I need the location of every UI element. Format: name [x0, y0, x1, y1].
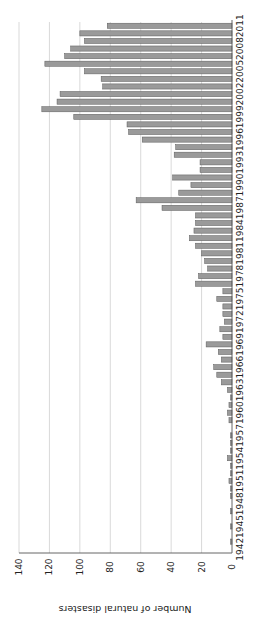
year-tick-label: 2005	[235, 60, 245, 83]
year-tick-label: 1978	[235, 264, 245, 287]
value-tick-label: 140	[14, 558, 24, 575]
year-tick-label: 1954	[235, 446, 245, 469]
bar-1998	[127, 122, 232, 127]
bar-2010	[80, 31, 232, 36]
year-tick-label: 1990	[235, 173, 245, 196]
bar-1994	[174, 152, 232, 157]
year-tick-label: 1972	[235, 310, 245, 333]
value-tick-labels: 020406080100120140	[14, 558, 237, 575]
value-tick-label: 60	[136, 561, 146, 573]
bar-series	[42, 23, 232, 544]
bar-1987	[162, 205, 232, 210]
bar-2006	[45, 61, 232, 66]
year-tick-label: 2002	[235, 83, 245, 106]
bar-1991	[173, 175, 232, 180]
value-tick-label: 0	[227, 564, 237, 570]
bar-1989	[179, 190, 232, 195]
bar-1954	[227, 456, 232, 461]
year-tick-label: 1993	[235, 151, 245, 174]
bar-1951	[229, 478, 232, 483]
bar-1984	[194, 228, 232, 233]
bar-1961	[229, 402, 232, 407]
bar-1979	[208, 266, 232, 271]
year-tick-label: 1996	[235, 128, 245, 151]
bar-2009	[84, 38, 232, 43]
bar-1974	[223, 304, 232, 309]
year-tick-label: 1945	[235, 515, 245, 538]
bar-1973	[223, 311, 232, 316]
bar-1967	[221, 357, 232, 362]
year-tick-label: 1984	[235, 219, 245, 242]
bar-1990	[191, 183, 232, 188]
bar-1976	[223, 289, 232, 294]
bar-1960	[227, 410, 232, 415]
year-tick-label: 2008	[235, 37, 245, 60]
bar-2007	[65, 54, 232, 59]
bar-1965	[217, 372, 232, 377]
value-tick-label: 100	[75, 558, 85, 575]
bar-1970	[223, 334, 232, 339]
year-tick-label: 2011	[235, 14, 245, 37]
bar-1971	[220, 327, 232, 332]
bar-1992	[200, 167, 232, 172]
bar-2000	[42, 107, 232, 112]
y-axis-title: Number of natural disasters	[58, 604, 191, 615]
bar-2002	[60, 91, 232, 96]
bar-2001	[57, 99, 232, 104]
bar-1983	[189, 236, 232, 241]
year-tick-label: 1942	[235, 538, 245, 561]
value-tick-label: 120	[44, 558, 54, 575]
bar-1968	[218, 349, 232, 354]
year-tick-label: 1966	[235, 355, 245, 378]
bar-1988	[136, 198, 232, 203]
year-tick-label: 1981	[235, 242, 245, 265]
bar-1975	[217, 296, 232, 301]
value-tick-label: 40	[166, 561, 176, 573]
year-tick-label: 1987	[235, 196, 245, 219]
bar-1969	[206, 342, 232, 347]
bar-1999	[74, 114, 232, 119]
bar-1963	[227, 387, 232, 392]
year-tick-label: 1957	[235, 424, 245, 447]
year-tick-label: 1960	[235, 401, 245, 424]
bar-2004	[101, 76, 232, 81]
bar-1986	[195, 213, 232, 218]
bar-1980	[205, 258, 232, 263]
bar-1981	[202, 251, 232, 256]
bar-1978	[199, 274, 232, 279]
value-tick-label: 20	[197, 561, 207, 573]
bar-1995	[176, 145, 232, 150]
bar-1985	[195, 220, 232, 225]
year-tick-labels: 1942194519481951195419571960196319661969…	[235, 14, 245, 560]
bar-1996	[142, 137, 232, 142]
bar-1972	[224, 319, 232, 324]
year-tick-label: 1969	[235, 333, 245, 356]
value-tick-label: 80	[105, 561, 115, 573]
year-tick-label: 1999	[235, 105, 245, 128]
bar-1997	[129, 129, 232, 134]
bar-2008	[71, 46, 232, 51]
bar-1966	[214, 365, 232, 370]
natural-disasters-bar-chart: 1942194519481951195419571960196319661969…	[0, 0, 263, 624]
bar-2003	[103, 84, 232, 89]
bar-1964	[221, 380, 232, 385]
bar-1977	[195, 281, 232, 286]
year-tick-label: 1963	[235, 378, 245, 401]
bar-2011	[107, 23, 232, 28]
year-tick-label: 1975	[235, 287, 245, 310]
year-tick-label: 1948	[235, 492, 245, 515]
bar-1982	[195, 243, 232, 248]
bar-1959	[229, 418, 232, 423]
year-tick-label: 1951	[235, 469, 245, 492]
bar-1993	[200, 160, 232, 165]
bar-2005	[84, 69, 232, 74]
